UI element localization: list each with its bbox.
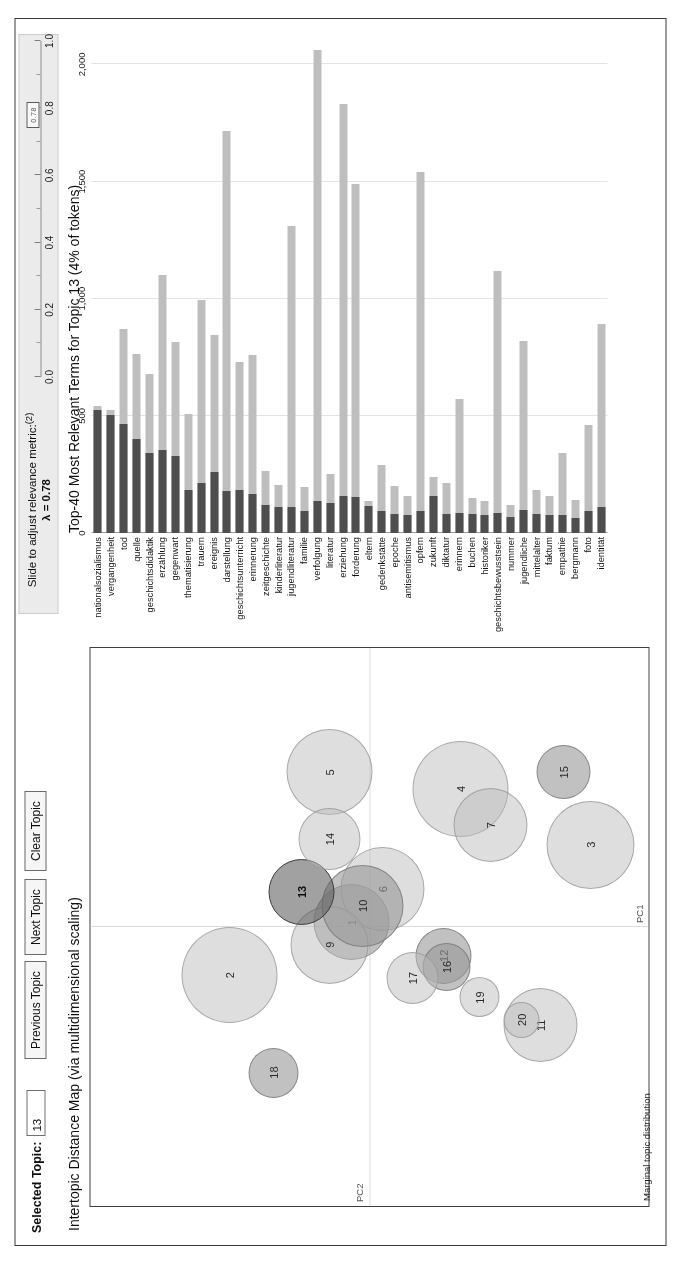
barchart-row[interactable]: forderung [349, 41, 362, 533]
barchart-row[interactable]: identität [594, 41, 607, 533]
barchart-row[interactable]: erziehung [336, 41, 349, 533]
topic-bubble-17[interactable]: 17 [386, 952, 438, 1004]
barchart-term-label[interactable]: darstellung [221, 533, 231, 582]
barchart-term-label[interactable]: geschichtsbewusstsein [492, 533, 502, 632]
barchart-term-label[interactable]: erinnerung [247, 533, 257, 581]
barchart-term-label[interactable]: erzählung [156, 533, 166, 578]
barchart-term-label[interactable]: kinderliteratur [273, 533, 283, 593]
topic-bubble-5[interactable]: 5 [286, 729, 372, 815]
barchart-term-label[interactable]: eltern [363, 533, 373, 560]
barchart-row[interactable]: literatur [323, 41, 336, 533]
barchart-term-label[interactable]: vergangenheit [105, 533, 115, 596]
barchart-row[interactable]: nationalsozialismus [91, 41, 104, 533]
barchart-row[interactable]: erinnerung [246, 41, 259, 533]
barchart-row[interactable]: vergangenheit [104, 41, 117, 533]
barchart-term-label[interactable]: antisemitismus [402, 533, 412, 598]
previous-topic-button[interactable]: Previous Topic [24, 961, 46, 1059]
barchart-row[interactable]: geschichtsdidaktik [143, 41, 156, 533]
barchart-row[interactable]: geschichtsbewusstsein [491, 41, 504, 533]
barchart-row[interactable]: opfern [414, 41, 427, 533]
top-terms-barchart[interactable]: 05001,0001,5002,000nationalsozialismusve… [91, 41, 607, 533]
barchart-row[interactable]: antisemitismus [401, 41, 414, 533]
barchart-term-label[interactable]: zukunft [427, 533, 437, 567]
barchart-row[interactable]: quelle [130, 41, 143, 533]
barchart-row[interactable]: buchen [465, 41, 478, 533]
barchart-term-label[interactable]: ereignis [208, 533, 218, 570]
selected-topic-input[interactable] [26, 1090, 45, 1136]
barchart-term-label[interactable]: foto [582, 533, 592, 553]
barchart-term-label[interactable]: quelle [131, 533, 141, 562]
barchart-row[interactable]: eltern [362, 41, 375, 533]
topic-bubble-3[interactable]: 3 [546, 801, 634, 889]
topic-bubble-7[interactable]: 7 [453, 788, 527, 862]
barchart-term-label[interactable]: verfolgung [311, 533, 321, 580]
barchart-row[interactable]: ereignis [207, 41, 220, 533]
barchart-term-label[interactable]: familie [298, 533, 308, 564]
barchart-term-label[interactable]: gegenwart [169, 533, 179, 580]
topic-bubble-19[interactable]: 19 [459, 978, 499, 1018]
barchart-term-label[interactable]: literatur [324, 533, 334, 568]
barchart-row[interactable]: zeitgeschichte [259, 41, 272, 533]
barchart-term-label[interactable]: buchen [466, 533, 476, 568]
barchart-row[interactable]: erinnern [452, 41, 465, 533]
barchart-term-label[interactable]: erinnern [453, 533, 463, 571]
barchart-row[interactable]: verfolgung [310, 41, 323, 533]
barchart-term-label[interactable]: bergmann [569, 533, 579, 579]
topic-bubble-2[interactable]: 2 [181, 927, 277, 1023]
barchart-term-label[interactable]: tod [118, 533, 128, 550]
barchart-term-label[interactable]: opfern [414, 533, 424, 563]
intertopic-map-plot[interactable]: PC1 PC2 123456791011121314151617181920 [89, 647, 649, 1207]
barchart-term-label[interactable]: identität [595, 533, 605, 570]
barchart-term-label[interactable]: historiker [479, 533, 489, 575]
barchart-row[interactable]: empathie [555, 41, 568, 533]
barchart-term-label[interactable]: gedenkstätte [376, 533, 386, 590]
next-topic-button[interactable]: Next Topic [24, 879, 46, 955]
topic-bubble-15[interactable]: 15 [536, 745, 590, 799]
barchart-row[interactable]: trauern [194, 41, 207, 533]
barchart-term-label[interactable]: jugendliteratur [285, 533, 295, 596]
barchart-term-label[interactable]: faktum [543, 533, 553, 565]
barchart-row[interactable]: epoche [388, 41, 401, 533]
barchart-term-label[interactable]: epoche [389, 533, 399, 568]
barchart-row[interactable]: foto [581, 41, 594, 533]
barchart-term-label[interactable]: mittelalter [531, 533, 541, 577]
barchart-term-label[interactable]: geschichtsdidaktik [144, 533, 154, 612]
barchart-row[interactable]: jugendliche [517, 41, 530, 533]
barchart-term-label[interactable]: forderung [350, 533, 360, 577]
barchart-term-label[interactable]: empathie [556, 533, 566, 575]
barchart-term-label[interactable]: erziehung [337, 533, 347, 578]
barchart-row[interactable]: mittelalter [530, 41, 543, 533]
relevance-slider-panel[interactable]: Slide to adjust relevance metric:(2) λ =… [18, 34, 58, 614]
topic-bubble-10[interactable]: 10 [321, 865, 403, 947]
barchart-row[interactable]: diktatur [439, 41, 452, 533]
topic-bubble-18[interactable]: 18 [248, 1048, 298, 1098]
topic-bubble-14[interactable]: 14 [298, 808, 360, 870]
clear-topic-button[interactable]: Clear Topic [24, 791, 46, 871]
barchart-row[interactable]: jugendliteratur [285, 41, 298, 533]
barchart-term-label[interactable]: jugendliche [518, 533, 528, 584]
topic-bubble-20[interactable]: 20 [503, 1002, 539, 1038]
barchart-term-label[interactable]: trauern [195, 533, 205, 566]
barchart-term-label[interactable]: nummer [505, 533, 515, 571]
barchart-row[interactable]: familie [297, 41, 310, 533]
barchart-term-label[interactable]: thematisierung [182, 533, 192, 598]
barchart-row[interactable]: kinderliteratur [272, 41, 285, 533]
barchart-term-label[interactable]: zeitgeschichte [260, 533, 270, 596]
barchart-row[interactable]: geschichtsunterricht [233, 41, 246, 533]
barchart-row[interactable]: thematisierung [181, 41, 194, 533]
barchart-row[interactable]: zukunft [426, 41, 439, 533]
barchart-row[interactable]: darstellung [220, 41, 233, 533]
barchart-row[interactable]: tod [117, 41, 130, 533]
barchart-row[interactable]: gedenkstätte [375, 41, 388, 533]
barchart-row[interactable]: erzählung [156, 41, 169, 533]
barchart-row[interactable]: historiker [478, 41, 491, 533]
relevance-slider-handle[interactable]: 0.78 [26, 102, 39, 128]
barchart-row[interactable]: bergmann [568, 41, 581, 533]
relevance-slider-track[interactable]: 0.00.20.40.60.81.00.78 [23, 41, 55, 377]
barchart-row[interactable]: gegenwart [168, 41, 181, 533]
barchart-term-label[interactable]: nationalsozialismus [92, 533, 102, 618]
barchart-row[interactable]: faktum [543, 41, 556, 533]
barchart-row[interactable]: nummer [504, 41, 517, 533]
barchart-term-label[interactable]: geschichtsunterricht [234, 533, 244, 620]
barchart-term-label[interactable]: diktatur [440, 533, 450, 568]
